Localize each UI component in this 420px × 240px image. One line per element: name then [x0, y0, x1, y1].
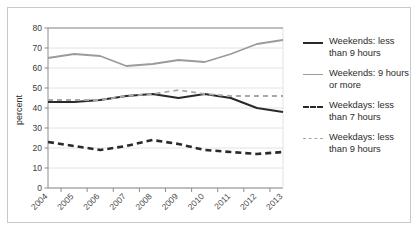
solid-dark-line-icon: [303, 36, 323, 49]
x-tick-label: 2005: [55, 191, 76, 212]
data-series-group: [48, 40, 283, 154]
y-tick-label: 50: [33, 83, 43, 93]
y-axis-ticks: 01020304050607080: [33, 23, 48, 193]
y-tick-label: 70: [33, 43, 43, 53]
x-tick-label: 2009: [160, 191, 181, 212]
dashed-dark-line-icon: [303, 100, 323, 113]
y-tick-label: 20: [33, 143, 43, 153]
x-tick-label: 2013: [264, 191, 285, 212]
x-tick-label: 2008: [133, 191, 154, 212]
dashed-gray-line-icon: [303, 132, 323, 145]
x-tick-label: 2004: [29, 191, 50, 212]
x-tick-label: 2012: [238, 191, 259, 212]
legend-item-label: Weekdays: less than 9 hours: [329, 132, 394, 155]
y-tick-label: 80: [33, 23, 43, 33]
y-tick-label: 40: [33, 103, 43, 113]
x-axis-ticks: 2004200520062007200820092010201120122013: [29, 188, 285, 212]
series-line-2: [48, 140, 283, 154]
solid-gray-line-icon: [303, 68, 323, 81]
x-tick-label: 2010: [186, 191, 207, 212]
y-tick-label: 10: [33, 163, 43, 173]
legend-item[interactable]: Weekdays: less than 7 hours: [303, 100, 415, 123]
legend-item[interactable]: Weekdays: less than 9 hours: [303, 132, 415, 155]
y-tick-label: 60: [33, 63, 43, 73]
legend-item[interactable]: Weekends: 9 hours or more: [303, 68, 415, 91]
gridlines: [48, 28, 283, 188]
legend-item-label: Weekends: 9 hours or more: [329, 68, 409, 91]
legend-item-label: Weekends: less than 9 hours: [329, 36, 394, 59]
x-tick-label: 2011: [212, 191, 232, 211]
legend-item[interactable]: Weekends: less than 9 hours: [303, 36, 415, 59]
y-axis-label: percent: [14, 94, 24, 125]
series-line-1: [48, 40, 283, 66]
legend-item-label: Weekdays: less than 7 hours: [329, 100, 394, 123]
x-tick-label: 2007: [107, 191, 128, 212]
y-tick-label: 30: [33, 123, 43, 133]
chart-legend: Weekends: less than 9 hours Weekends: 9 …: [303, 36, 415, 164]
x-tick-label: 2006: [81, 191, 102, 212]
